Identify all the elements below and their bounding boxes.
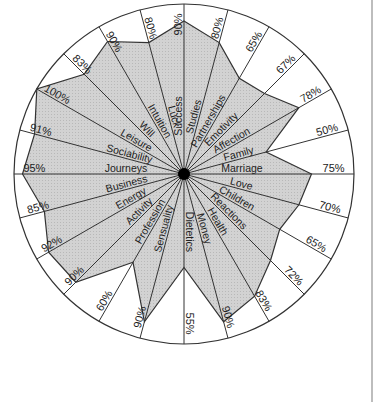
center-dot (178, 168, 190, 180)
radar-chart: SuccessStudiesPartnershipsEmotivityAffec… (0, 0, 373, 402)
value-label: 95% (23, 162, 45, 174)
category-label: Dietetics (184, 212, 196, 252)
value-label: 55% (184, 313, 196, 335)
value-label: 75% (323, 162, 345, 174)
category-label: Marriage (221, 162, 263, 174)
value-label: 90% (172, 13, 184, 35)
category-label: Journeys (105, 162, 148, 174)
